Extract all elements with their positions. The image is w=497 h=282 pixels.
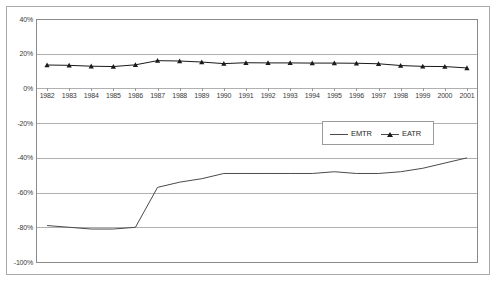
legend-entry-eatr[interactable]: EATR	[381, 128, 421, 140]
chart-container: 40%20%0%-20%-40%-60%-80%-100% 1982198319…	[0, 0, 497, 282]
legend-triangle-icon-eatr	[381, 130, 399, 139]
legend-label-eatr: EATR	[402, 130, 421, 138]
legend-entry-emtr[interactable]: EMTR	[330, 128, 372, 140]
series-line-emtr	[47, 158, 467, 229]
legend-line-icon-emtr	[330, 130, 348, 139]
chart-legend: EMTR EATR	[322, 121, 434, 145]
series-line-eatr	[47, 61, 467, 68]
legend-label-emtr: EMTR	[351, 130, 372, 138]
